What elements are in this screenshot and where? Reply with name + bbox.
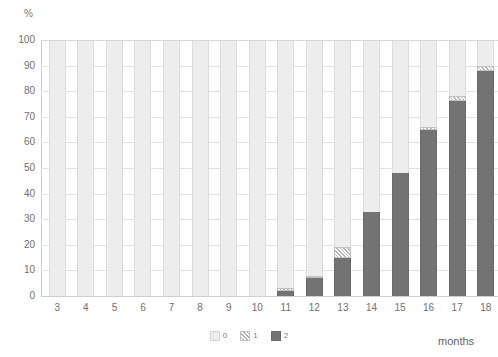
light-solid-swatch bbox=[210, 331, 220, 341]
bar-segment-2[interactable] bbox=[334, 258, 351, 296]
x-axis-tick-label: 9 bbox=[214, 302, 244, 313]
y-axis-tick-label: 20 bbox=[5, 240, 35, 250]
legend-item-label: 0 bbox=[223, 332, 227, 340]
bar-segment-2[interactable] bbox=[277, 291, 294, 296]
bar-stack[interactable] bbox=[306, 40, 323, 296]
bar-segment-0[interactable] bbox=[334, 40, 351, 247]
bar-stack[interactable] bbox=[192, 40, 209, 296]
legend-item[interactable]: 0 bbox=[210, 331, 227, 341]
x-axis-title: months bbox=[438, 335, 474, 347]
x-axis-tick-label: 8 bbox=[185, 302, 215, 313]
x-axis-tick-label: 15 bbox=[385, 302, 415, 313]
legend-item-label: 1 bbox=[253, 332, 257, 340]
y-axis-tick-label: 100 bbox=[5, 35, 35, 45]
x-axis-tick-label: 18 bbox=[471, 302, 498, 313]
bar-stack[interactable] bbox=[392, 40, 409, 296]
bar-segment-0[interactable] bbox=[49, 40, 66, 296]
bar-segment-2[interactable] bbox=[477, 71, 494, 296]
bar-segment-0[interactable] bbox=[106, 40, 123, 296]
bar-stack[interactable] bbox=[449, 40, 466, 296]
legend-item[interactable]: 2 bbox=[271, 331, 288, 341]
bar-stack[interactable] bbox=[220, 40, 237, 296]
bar-segment-0[interactable] bbox=[392, 40, 409, 173]
bar-stack[interactable] bbox=[277, 40, 294, 296]
dark-solid-swatch bbox=[271, 331, 281, 341]
bar-segment-0[interactable] bbox=[220, 40, 237, 296]
bar-segment-1[interactable] bbox=[334, 247, 351, 257]
bar-segment-0[interactable] bbox=[249, 40, 266, 296]
x-axis-tick-label: 13 bbox=[328, 302, 358, 313]
x-axis-tick-label: 10 bbox=[242, 302, 272, 313]
chart-legend: 012 bbox=[0, 331, 498, 341]
legend-item-label: 2 bbox=[284, 332, 288, 340]
stacked-bar-chart: % 0102030405060708090100 345678910111213… bbox=[0, 0, 498, 357]
y-axis-tick-label: 70 bbox=[5, 112, 35, 122]
bar-stack[interactable] bbox=[49, 40, 66, 296]
bar-segment-2[interactable] bbox=[449, 101, 466, 296]
bar-segment-1[interactable] bbox=[277, 288, 294, 291]
x-axis-tick-label: 6 bbox=[128, 302, 158, 313]
y-axis-tick-label: 10 bbox=[5, 265, 35, 275]
bar-stack[interactable] bbox=[106, 40, 123, 296]
hatched-swatch bbox=[240, 331, 250, 341]
x-axis-tick-label: 14 bbox=[356, 302, 386, 313]
y-axis-tick-label: 80 bbox=[5, 86, 35, 96]
bar-segment-0[interactable] bbox=[363, 40, 380, 212]
y-axis-tick-label: 30 bbox=[5, 214, 35, 224]
bar-segment-2[interactable] bbox=[392, 173, 409, 296]
bar-stack[interactable] bbox=[134, 40, 151, 296]
x-axis-tick-label: 5 bbox=[99, 302, 129, 313]
y-axis-tick-label: 0 bbox=[5, 291, 35, 301]
bar-segment-2[interactable] bbox=[420, 130, 437, 296]
y-axis-tick-label: 50 bbox=[5, 163, 35, 173]
bar-segment-0[interactable] bbox=[192, 40, 209, 296]
x-axis-tick-label: 17 bbox=[442, 302, 472, 313]
x-axis-tick-label: 12 bbox=[299, 302, 329, 313]
bar-segment-0[interactable] bbox=[163, 40, 180, 296]
bar-segment-0[interactable] bbox=[477, 40, 494, 66]
bar-stack[interactable] bbox=[249, 40, 266, 296]
bar-segment-1[interactable] bbox=[477, 66, 494, 71]
bar-stack[interactable] bbox=[420, 40, 437, 296]
bar-segment-0[interactable] bbox=[277, 40, 294, 288]
bar-stack[interactable] bbox=[77, 40, 94, 296]
y-axis-tick-label: 60 bbox=[5, 137, 35, 147]
x-axis-tick-label: 3 bbox=[42, 302, 72, 313]
bar-segment-0[interactable] bbox=[134, 40, 151, 296]
bar-segment-1[interactable] bbox=[306, 276, 323, 279]
y-axis-unit-label: % bbox=[24, 8, 33, 19]
y-axis-tick-label: 40 bbox=[5, 189, 35, 199]
x-axis-tick-label: 4 bbox=[71, 302, 101, 313]
x-axis-tick-label: 16 bbox=[414, 302, 444, 313]
bar-segment-0[interactable] bbox=[420, 40, 437, 127]
bar-segment-0[interactable] bbox=[449, 40, 466, 96]
gridline bbox=[41, 296, 498, 297]
y-axis-tick-label: 90 bbox=[5, 61, 35, 71]
plot-area: 0102030405060708090100 bbox=[41, 40, 498, 296]
bar-segment-2[interactable] bbox=[306, 278, 323, 296]
bar-segment-1[interactable] bbox=[449, 96, 466, 101]
bar-stack[interactable] bbox=[477, 40, 494, 296]
legend-item[interactable]: 1 bbox=[240, 331, 257, 341]
bar-stack[interactable] bbox=[363, 40, 380, 296]
x-axis-tick-label: 7 bbox=[157, 302, 187, 313]
bar-stack[interactable] bbox=[334, 40, 351, 296]
bar-segment-0[interactable] bbox=[306, 40, 323, 276]
bar-segment-2[interactable] bbox=[363, 212, 380, 296]
bar-segment-0[interactable] bbox=[77, 40, 94, 296]
bar-stack[interactable] bbox=[163, 40, 180, 296]
bar-segment-1[interactable] bbox=[420, 127, 437, 130]
x-axis-tick-label: 11 bbox=[271, 302, 301, 313]
